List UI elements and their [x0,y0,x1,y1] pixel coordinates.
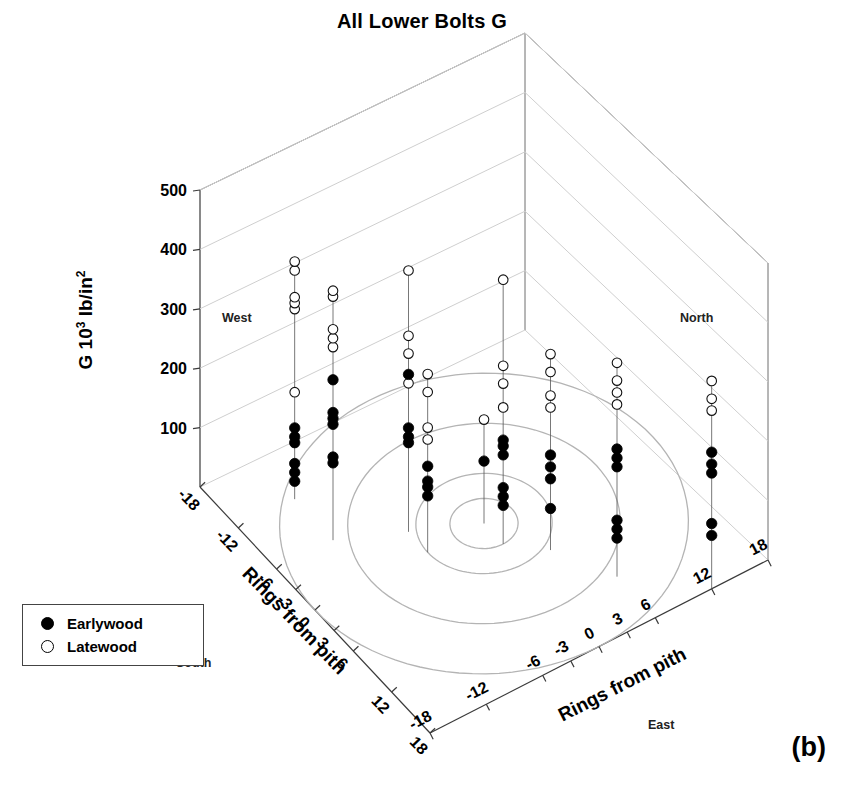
data-point [498,379,508,389]
axes-frame [200,33,768,733]
legend-label-latewood: Latewood [67,638,137,655]
data-point [545,450,555,460]
svg-text:West: West [222,311,252,325]
data-point [403,369,413,379]
data-point [479,456,489,466]
data-point [545,462,555,472]
svg-text:300: 300 [160,301,187,318]
svg-text:12: 12 [368,692,393,717]
axis-labels-layer: 100200300400500-18-12-6-30361218-18-12-6… [160,182,770,758]
data-point [498,403,508,413]
svg-text:3: 3 [610,609,626,628]
svg-text:-12: -12 [462,678,490,704]
data-point [546,391,556,401]
svg-text:East: East [648,718,675,732]
data-point [479,415,489,425]
filled-circle-icon [41,617,67,630]
data-point [707,406,717,416]
data-point [707,376,717,386]
data-point [545,474,555,484]
data-point [328,407,338,417]
data-point [403,423,413,433]
data-point [328,286,338,296]
svg-text:-18: -18 [406,707,434,733]
svg-text:-18: -18 [175,485,203,514]
data-point [404,331,414,341]
svg-text:100: 100 [160,420,187,437]
chart-figure: All Lower Bolts G G 103 lb/in2 100200300… [0,0,844,799]
data-point [328,452,338,462]
data-point [498,435,508,445]
data-point [290,387,300,397]
open-circle-icon [41,640,67,653]
svg-text:-12: -12 [213,526,241,555]
data-point [707,447,717,457]
svg-text:18: 18 [407,733,432,758]
svg-text:400: 400 [160,241,187,258]
data-point [612,444,622,454]
data-point [612,400,622,410]
legend-item-earlywood[interactable]: Earlywood [23,612,203,635]
legend: Earlywood Latewood [22,604,204,666]
data-point [498,275,508,285]
plot-canvas: 100200300400500-18-12-6-30361218-18-12-6… [0,0,844,799]
svg-text:18: 18 [746,535,770,558]
data-point [546,367,556,377]
data-points-layer [290,257,717,589]
data-point [707,459,717,469]
data-point [423,435,433,445]
data-point [546,403,556,413]
data-point [290,257,300,267]
data-point [707,394,717,404]
data-point [404,266,414,276]
legend-item-latewood[interactable]: Latewood [23,635,203,658]
svg-text:0: 0 [581,624,597,643]
data-point [545,503,555,513]
data-point [290,292,300,302]
svg-text:500: 500 [160,182,187,199]
data-point [423,476,433,486]
data-point [328,333,338,343]
data-point [290,458,300,468]
data-point [328,375,338,385]
data-point [290,266,300,276]
data-point [290,423,300,433]
data-point [423,369,433,379]
data-point [612,388,622,398]
data-point [498,361,508,371]
data-point [423,387,433,397]
svg-text:6: 6 [638,595,654,614]
svg-text:-3: -3 [551,637,571,659]
svg-text:12: 12 [690,564,714,587]
data-point [423,461,433,471]
data-point [612,358,622,368]
data-point [707,518,717,528]
data-point [423,423,433,433]
data-point [498,482,508,492]
data-point [404,349,414,359]
data-point [612,376,622,386]
data-point [707,530,717,540]
legend-label-earlywood: Earlywood [67,615,143,632]
data-point [328,342,338,352]
data-point [328,325,338,335]
svg-text:Rings from pith: Rings from pith [238,563,351,679]
data-point [546,349,556,359]
svg-text:North: North [680,311,713,325]
svg-text:200: 200 [160,360,187,377]
svg-text:Rings from pith: Rings from pith [555,643,690,725]
data-point [612,515,622,525]
panel-label: (b) [792,732,826,763]
